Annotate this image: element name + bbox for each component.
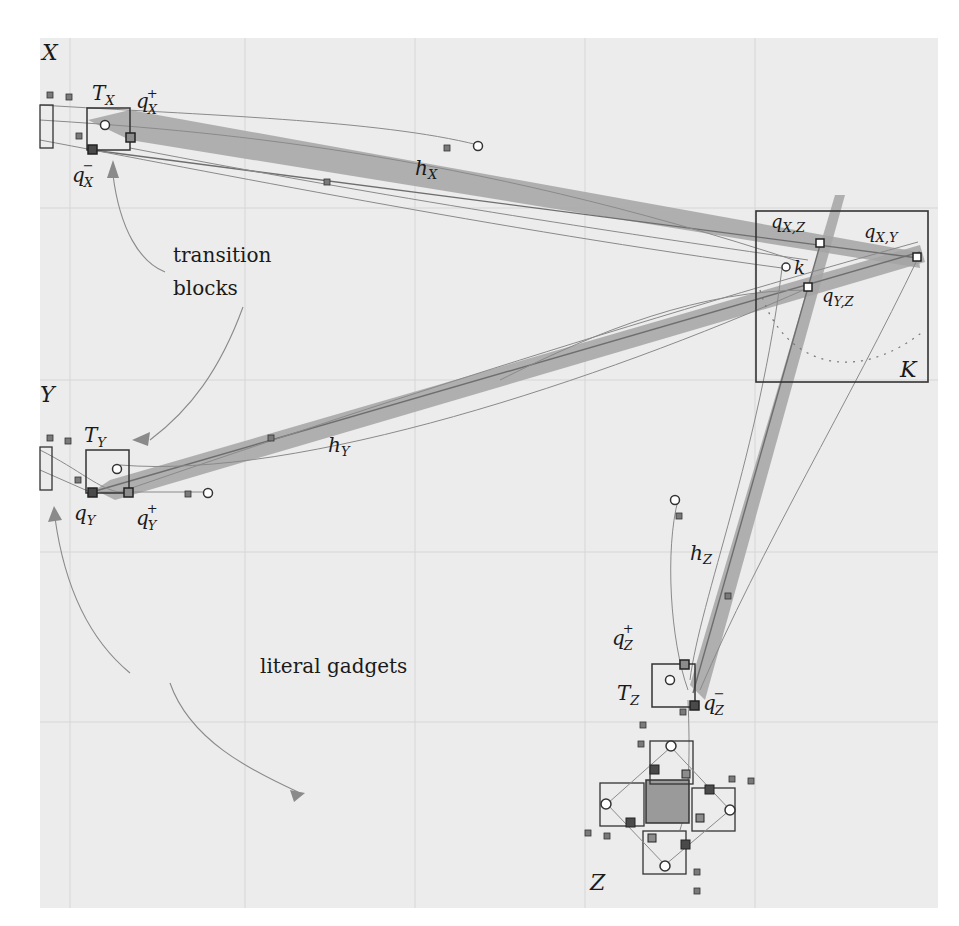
gadget-label-Y: Y [40, 382, 57, 407]
annotation-transition: transition [173, 243, 272, 267]
diagram-figure: X TX q+X q−X hX Y TY qY q+Y hY hZ q+Z TZ… [0, 0, 959, 926]
q-plus-X: q+X [136, 86, 158, 117]
label-k: k [794, 257, 805, 278]
gadget-label-X: X [40, 40, 59, 65]
annotation-literal-gadgets: literal gadgets [260, 654, 407, 678]
gadget-label-Z: Z [589, 870, 606, 895]
label-K: K [899, 357, 918, 382]
annotation-blocks: blocks [173, 276, 238, 300]
